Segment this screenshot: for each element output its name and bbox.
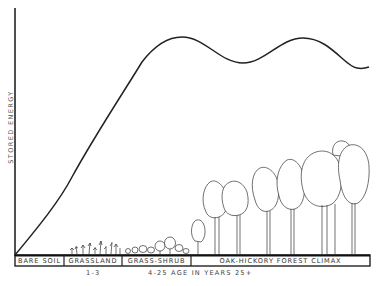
- age-label-grassland: 1-3: [86, 268, 100, 278]
- diagram-graphics: [0, 0, 380, 286]
- shrub-plants-illustration: [126, 237, 190, 254]
- succession-diagram: STORED ENERGY BARE SOIL GRASSLAND GRASS-…: [0, 0, 380, 286]
- grass-plants-illustration: [70, 241, 120, 254]
- stored-energy-curve: [15, 37, 369, 255]
- stage-label-grass-shrub: GRASS-SHRUB: [122, 256, 191, 266]
- young-trees-illustration: [192, 220, 206, 254]
- y-axis-label: STORED ENERGY: [7, 87, 17, 167]
- stage-label-grassland: GRASSLAND: [64, 256, 122, 266]
- age-label-axis: 4-25 AGE IN YEARS 25+: [148, 268, 252, 278]
- stage-label-bare-soil: BARE SOIL: [15, 256, 64, 266]
- forest-trees-illustration: [203, 141, 369, 254]
- stage-label-forest-climax: OAK-HICKORY FOREST CLIMAX: [191, 256, 370, 266]
